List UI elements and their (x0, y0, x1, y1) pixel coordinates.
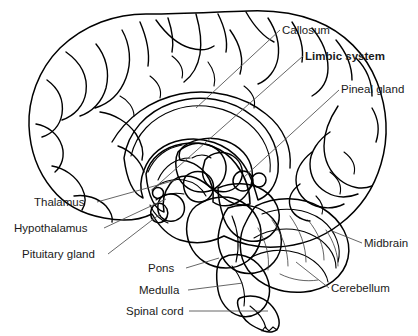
brain-diagram-figure: Callosum Limbic system Pineal gland Midb… (0, 0, 418, 336)
label-midbrain: Midbrain (364, 237, 408, 249)
spinal-cord-body (238, 296, 280, 332)
leader-callosum (196, 30, 280, 108)
label-pons: Pons (148, 262, 174, 274)
label-hypothalamus: Hypothalamus (14, 222, 88, 234)
label-spinal-cord: Spinal cord (126, 305, 184, 317)
label-pineal-gland: Pineal gland (341, 83, 404, 95)
leader-cerebellum (296, 262, 329, 288)
pineal-body (233, 171, 266, 191)
label-pituitary-gland: Pituitary gland (22, 248, 95, 260)
leader-limbic-system (152, 56, 303, 190)
leader-pineal-gland (243, 90, 339, 178)
labels-group: Callosum Limbic system Pineal gland Midb… (14, 24, 408, 317)
leader-midbrain (332, 231, 362, 243)
cerebral-cortex (29, 11, 386, 247)
leader-hypothalamus (104, 199, 166, 228)
leader-medulla (188, 283, 243, 290)
label-limbic-system: Limbic system (305, 50, 385, 62)
label-callosum: Callosum (282, 24, 330, 36)
pons-body (187, 197, 282, 273)
label-thalamus: Thalamus (34, 196, 85, 208)
hypothalamus-body (158, 194, 185, 221)
label-cerebellum: Cerebellum (331, 282, 390, 294)
brain-diagram-svg: Callosum Limbic system Pineal gland Midb… (0, 0, 418, 336)
label-medulla: Medulla (139, 284, 180, 296)
